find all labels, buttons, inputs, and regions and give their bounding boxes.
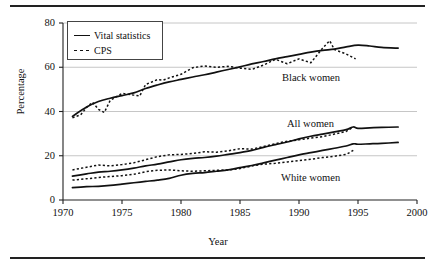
series-paths bbox=[72, 41, 398, 188]
y-tick-label: 20 bbox=[29, 151, 55, 162]
y-tick-label: 80 bbox=[29, 18, 55, 29]
x-tick-label: 1990 bbox=[279, 208, 319, 219]
series-line-3 bbox=[72, 127, 353, 170]
x-tick-label: 1995 bbox=[338, 208, 378, 219]
annotation-white-women: White women bbox=[281, 172, 340, 183]
legend-dashed-line-icon bbox=[74, 48, 90, 54]
chart-legend: Vital statistics CPS bbox=[67, 21, 163, 60]
y-tick-label: 0 bbox=[29, 195, 55, 206]
legend-item-cps: CPS bbox=[74, 45, 112, 56]
x-tick-label: 1970 bbox=[43, 208, 83, 219]
legend-label-vital-statistics: Vital statistics bbox=[94, 30, 150, 41]
x-tick-label: 1980 bbox=[161, 208, 201, 219]
figure-container: Percentage Year 020406080 19701975198019… bbox=[0, 0, 435, 267]
x-tick-label: 2000 bbox=[397, 208, 435, 219]
y-tick-label: 40 bbox=[29, 107, 55, 118]
chart-plot-area bbox=[0, 0, 435, 267]
legend-solid-line-icon bbox=[74, 33, 90, 39]
x-tick-label: 1985 bbox=[220, 208, 260, 219]
x-axis-label: Year bbox=[178, 236, 258, 247]
y-axis-label: Percentage bbox=[15, 52, 26, 132]
annotation-all-women: All women bbox=[287, 118, 334, 129]
y-tick-label: 60 bbox=[29, 62, 55, 73]
annotation-black-women: Black women bbox=[282, 72, 340, 83]
legend-label-cps: CPS bbox=[94, 45, 112, 56]
x-tick-label: 1975 bbox=[102, 208, 142, 219]
legend-item-vital-statistics: Vital statistics bbox=[74, 30, 150, 41]
